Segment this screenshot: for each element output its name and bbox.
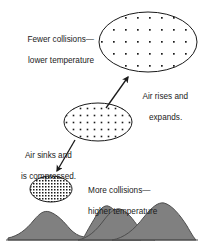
fewer-collisions-label: Fewer collisions— lower temperature bbox=[6, 25, 94, 76]
air-rises-line2: expands. bbox=[149, 113, 182, 122]
air-sinks-line1: Air sinks and bbox=[25, 151, 72, 160]
air-sinks-label: Air sinks and is compressed. bbox=[2, 141, 86, 192]
fewer-collisions-line2: lower temperature bbox=[28, 56, 94, 65]
air-rises-line1: Air rises and bbox=[143, 92, 189, 101]
fewer-collisions-line1: Fewer collisions— bbox=[28, 35, 94, 44]
expanded-air-parcel bbox=[99, 12, 197, 72]
more-collisions-label: More collisions— higher temperature bbox=[79, 176, 199, 227]
air-rises-label: Air rises and expands. bbox=[124, 82, 198, 133]
more-collisions-line2: higher temperature bbox=[88, 207, 157, 216]
more-collisions-line1: More collisions— bbox=[88, 186, 150, 195]
air-parcel-temperature-diagram: Fewer collisions— lower temperature Air … bbox=[0, 0, 204, 247]
air-sinks-line2: is compressed. bbox=[21, 172, 76, 181]
intermediate-air-parcel bbox=[64, 103, 132, 141]
